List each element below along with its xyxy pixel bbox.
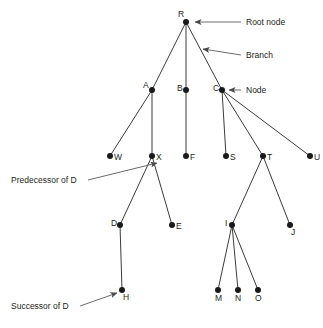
branch-edge-c-t [222,90,263,156]
annotation-label-node: Node [246,85,267,95]
node-label-e: E [176,221,182,231]
node-label-u: U [314,152,320,162]
branch-edge-t-j [263,156,290,225]
branch-layer [110,22,310,290]
node-c[interactable] [219,87,225,93]
node-label-i: I [225,218,227,228]
node-label-n: N [235,293,241,303]
branch-edge-x-e [152,156,172,225]
node-label-c: C [213,83,219,93]
branch-edge-i-o [232,225,258,290]
node-w[interactable] [107,153,113,159]
tree-diagram: RABCWXFSTUDEIJHMNO Root nodeBranchNodePr… [0,0,323,328]
branch-edge-i-m [218,225,232,290]
node-r[interactable] [183,19,189,25]
node-label-d: D [111,218,117,228]
node-s[interactable] [223,153,229,159]
branch-edge-c-u [222,90,310,156]
annotation-leader-successor-of-d [80,293,117,306]
node-t[interactable] [260,153,266,159]
annotation-leader-predecessor-of-d [88,163,157,180]
branch-edge-r-a [152,22,186,90]
annotation-leader-layer [80,22,241,306]
node-i[interactable] [229,222,235,228]
node-label-r: R [178,9,184,19]
node-label-h: H [123,292,129,302]
node-label-m: M [215,293,222,303]
node-label-j: J [291,227,295,237]
annotation-label-root-node: Root node [246,17,285,27]
branch-edge-c-s [222,90,226,156]
node-label-s: S [230,152,236,162]
node-b[interactable] [183,87,189,93]
annotation-label-successor-of-d: Successor of D [11,301,69,311]
node-u[interactable] [307,153,313,159]
node-label-o: O [255,293,262,303]
node-label-x: X [156,152,162,162]
branch-edge-a-w [110,90,152,156]
annotation-leader-branch [203,49,241,55]
branch-edge-x-d [120,156,152,225]
node-d[interactable] [117,222,123,228]
branch-edge-d-h [120,225,122,290]
tree-diagram-canvas: RABCWXFSTUDEIJHMNO Root nodeBranchNodePr… [0,0,323,328]
node-layer: RABCWXFSTUDEIJHMNO [107,9,320,303]
annotation-label-branch: Branch [246,50,273,60]
node-label-f: F [190,152,195,162]
node-label-w: W [114,152,122,162]
node-label-a: A [143,80,149,90]
annotation-label-predecessor-of-d: Predecessor of D [11,175,77,185]
node-e[interactable] [169,222,175,228]
branch-edge-i-n [232,225,238,290]
node-x[interactable] [149,153,155,159]
branch-edge-r-c [186,22,222,90]
node-label-b: B [177,83,183,93]
node-f[interactable] [183,153,189,159]
node-label-t: T [267,152,272,162]
node-a[interactable] [149,87,155,93]
branch-edge-t-i [232,156,263,225]
